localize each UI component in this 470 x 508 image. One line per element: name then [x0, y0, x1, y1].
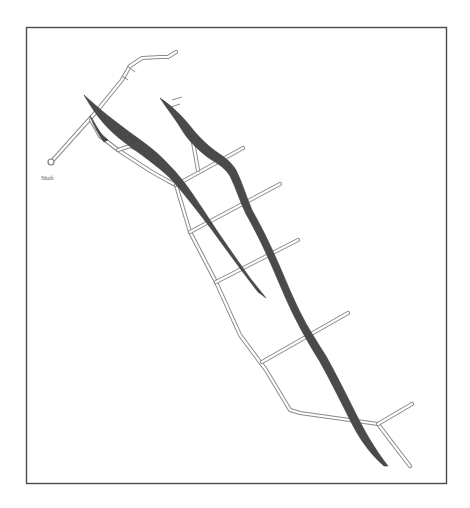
shaft-icon — [48, 159, 54, 165]
mine-plan-figure: Shaft — [0, 0, 470, 508]
shaft-label: Shaft — [41, 175, 54, 181]
figure-frame — [27, 28, 447, 484]
